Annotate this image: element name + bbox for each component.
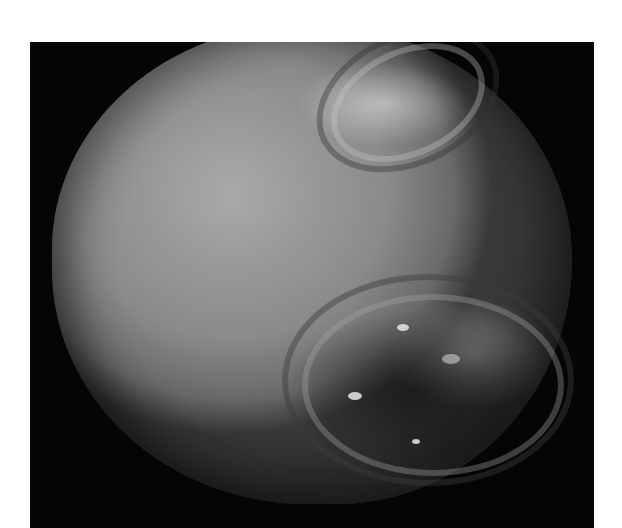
bright-spot bbox=[397, 324, 409, 331]
photo-frame bbox=[30, 42, 594, 528]
bright-spot bbox=[442, 354, 460, 364]
bright-spot bbox=[412, 439, 420, 444]
groove-band bbox=[302, 294, 564, 476]
moon-body bbox=[52, 42, 572, 504]
bright-spot bbox=[348, 392, 362, 400]
